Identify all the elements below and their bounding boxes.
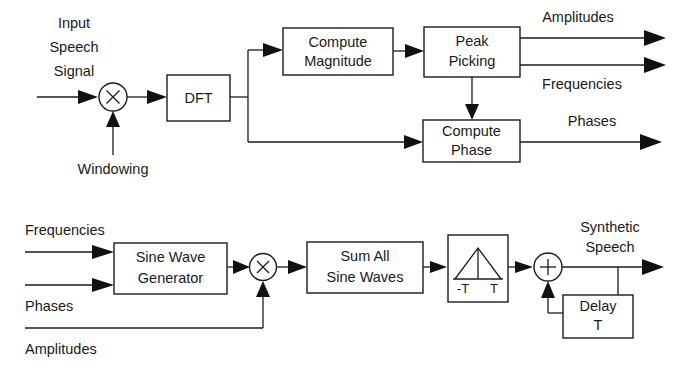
phases-input-arrow-icon xyxy=(92,278,114,292)
block-sum-all-sine-waves-label-line1: Sum All xyxy=(340,248,389,264)
block-sine-wave-generator-label-line1: Sine Wave xyxy=(136,249,206,265)
overlap-window-input-arrow-icon xyxy=(430,261,447,273)
summer-feedback-arrow-icon xyxy=(541,281,555,298)
peak-picking-input-arrow-icon xyxy=(405,44,424,58)
compute-magnitude-input-arrow-icon xyxy=(263,43,283,57)
compute-phase-top-arrow-icon xyxy=(465,104,479,120)
windowing-label: Windowing xyxy=(78,161,149,177)
synthetic-speech-output-arrow-icon xyxy=(642,259,664,275)
overlap-window-right-tick-label: T xyxy=(490,281,498,296)
diagram-canvas: Input Speech Signal Windowing DFT xyxy=(0,0,698,375)
phases-input-label: Phases xyxy=(25,298,73,314)
block-compute-magnitude-label-line2: Magnitude xyxy=(304,53,372,69)
amplitudes-input-label: Amplitudes xyxy=(25,341,97,357)
windowing-arrow-icon xyxy=(106,111,120,127)
input-speech-label-line2: Speech xyxy=(49,39,98,55)
synthesis-multiplier-input-arrow-icon xyxy=(233,260,250,274)
amplitudes-output-label: Amplitudes xyxy=(542,9,614,25)
block-sine-wave-generator-label-line2: Generator xyxy=(138,270,203,286)
sum-input-arrow-icon xyxy=(288,260,307,274)
compute-phase-input-arrow-icon xyxy=(404,135,423,149)
frequencies-output-arrow-icon xyxy=(644,57,666,73)
summer-input-arrow-icon xyxy=(515,261,533,273)
synthetic-speech-label-line1: Synthetic xyxy=(580,219,640,235)
block-peak-picking-label-line1: Peak xyxy=(455,33,489,49)
frequencies-input-arrow-icon xyxy=(92,245,114,259)
block-peak-picking-label-line2: Picking xyxy=(449,53,496,69)
input-speech-arrow-icon xyxy=(78,90,98,104)
analysis-stage: Input Speech Signal Windowing DFT xyxy=(37,9,666,177)
block-compute-magnitude-label-line1: Compute xyxy=(309,34,368,50)
block-compute-phase-label-line1: Compute xyxy=(442,123,501,139)
input-speech-label-line3: Signal xyxy=(54,63,94,79)
block-delay-label-line1: Delay xyxy=(579,298,617,314)
block-diagram-figure: Input Speech Signal Windowing DFT xyxy=(0,0,698,375)
amplitudes-multiplier-arrow-icon xyxy=(256,281,270,297)
phases-output-label: Phases xyxy=(568,113,616,129)
frequencies-input-label: Frequencies xyxy=(25,222,105,238)
block-delay-label-line2: T xyxy=(594,317,603,333)
input-speech-label-line1: Input xyxy=(58,15,90,31)
block-compute-phase-label-line2: Phase xyxy=(451,142,492,158)
synthetic-speech-label-line2: Speech xyxy=(585,239,634,255)
frequencies-output-label: Frequencies xyxy=(542,76,622,92)
dft-input-arrow-icon xyxy=(147,90,167,104)
amplitudes-output-arrow-icon xyxy=(644,30,666,46)
block-sum-all-sine-waves-label-line2: Sine Waves xyxy=(327,269,404,285)
block-dft-label: DFT xyxy=(184,90,212,106)
overlap-window-left-tick-label: -T xyxy=(457,281,469,296)
synthesis-stage: Frequencies Phases Sine Wave Generator A… xyxy=(25,219,664,357)
phases-output-arrow-icon xyxy=(640,134,662,150)
